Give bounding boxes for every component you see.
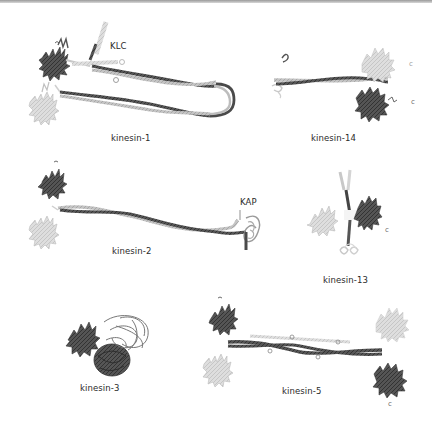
c-terminus-mark: c (409, 60, 413, 68)
kinesin-1-motor-head-dark (39, 39, 70, 81)
kinesin-diagram: c c (0, 0, 432, 426)
kinesin-1-motor-head-light (29, 82, 59, 125)
c-terminus-mark: c (411, 98, 415, 106)
c-terminus-mark: c (388, 400, 392, 408)
kinesin-14-structure: c c (272, 48, 415, 122)
kinesin-13-label: kinesin-13 (323, 275, 368, 285)
klc-label: KLC (110, 41, 127, 51)
kinesin-3-structure (66, 316, 148, 376)
kinesin-5-label: kinesin-5 (282, 386, 321, 396)
kinesin-14-label: kinesin-14 (311, 133, 356, 143)
kinesin-1-structure (29, 22, 234, 125)
kap-subunit (240, 210, 260, 250)
kinesin-13-structure: c (307, 170, 389, 254)
kinesin-1-label: kinesin-1 (111, 133, 150, 143)
kap-label: KAP (240, 197, 257, 207)
kinesin-2-structure (29, 161, 260, 250)
kinesin-3-label: kinesin-3 (80, 383, 119, 393)
structures-canvas: c c (0, 0, 432, 426)
kinesin-2-label: kinesin-2 (112, 246, 151, 256)
c-terminus-mark: c (385, 226, 389, 234)
